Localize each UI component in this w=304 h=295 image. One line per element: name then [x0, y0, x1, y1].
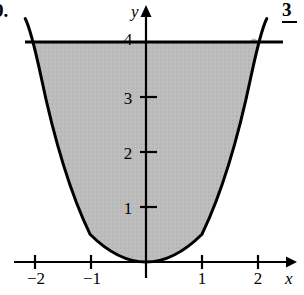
x-tick-label--1: −1: [80, 270, 104, 287]
y-tick-label-1: 1: [121, 200, 135, 217]
x-axis-arrow: [286, 257, 297, 268]
x-tick-label--2: −2: [24, 270, 48, 287]
y-tick-label-4: 4: [121, 31, 135, 48]
y-axis-arrow: [141, 5, 152, 17]
x-axis-label: x: [285, 270, 293, 287]
x-tick-label-2: 2: [250, 270, 266, 287]
figure-container: 9. 3: [0, 0, 304, 295]
x-tick-label-1: 1: [194, 270, 210, 287]
y-axis-label: y: [131, 3, 139, 20]
plot-area: [0, 0, 304, 295]
y-tick-label-2: 2: [121, 145, 135, 162]
y-tick-label-3: 3: [121, 90, 135, 107]
